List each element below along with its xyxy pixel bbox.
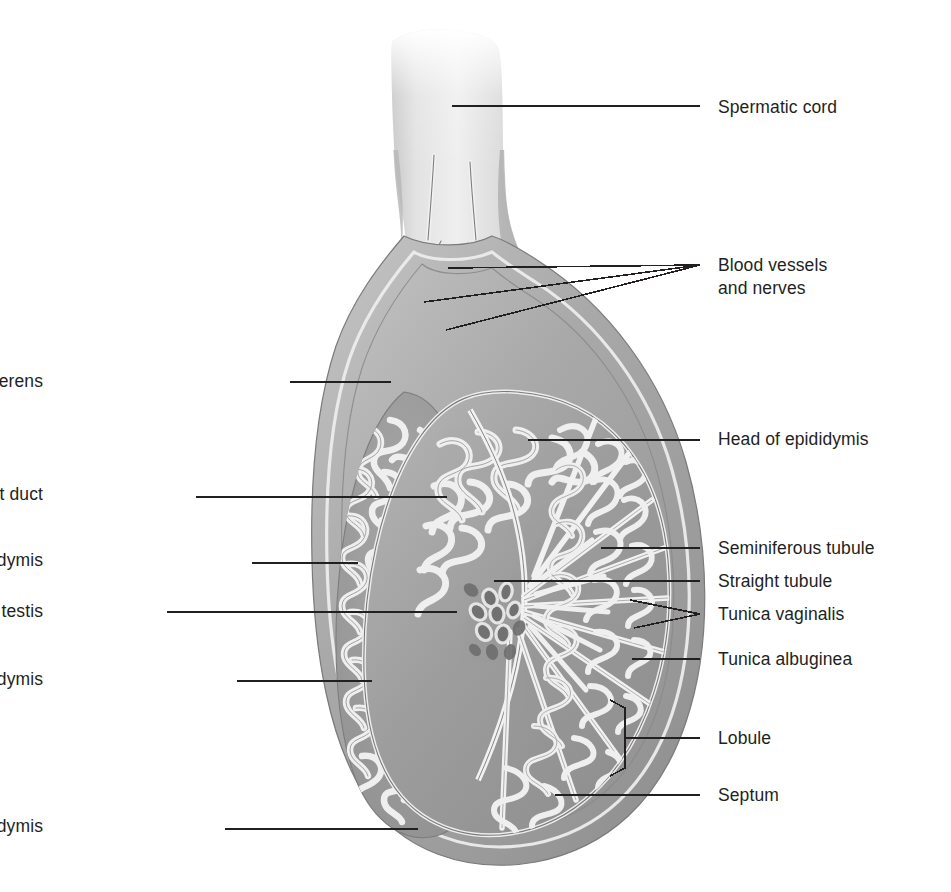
label-tunica-vaginalis: Tunica vaginalis [718,603,844,626]
label-ductus-epididymis: Ductus epididymis [0,668,43,691]
label-seminiferous-tubule: Seminiferous tubule [718,537,875,560]
label-rete-testis: Rete testis [0,600,43,623]
label-lobule: Lobule [718,727,771,750]
label-tunica-albuginea: Tunica albuginea [718,648,852,671]
label-tail-of-epididymis: Tail of epididymis [0,815,43,838]
label-body-of-epididymis: Body of epididymis [0,549,43,572]
label-blood-vessels-and-nerves: Blood vesselsand nerves [718,254,827,300]
label-head-of-epididymis: Head of epididymis [718,428,869,451]
label-ductus-vas-deferens: Ductus (vas) deferens [0,370,43,393]
label-spermatic-cord: Spermatic cord [718,96,837,119]
spermatic-cord-region [378,30,524,266]
label-septum: Septum [718,784,779,807]
label-straight-tubule: Straight tubule [718,570,832,593]
label-efferent-duct: Efferent duct [0,483,43,506]
